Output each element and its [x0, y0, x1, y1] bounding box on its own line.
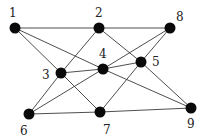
node-label-9: 9	[187, 117, 195, 131]
node-label-4: 4	[99, 47, 107, 61]
edge-5-9	[141, 62, 191, 108]
node-3	[56, 68, 67, 79]
edge-1-4	[15, 28, 103, 69]
node-9	[186, 103, 197, 114]
edge-4-9	[103, 69, 191, 108]
node-8	[165, 23, 176, 34]
edge-1-3	[15, 28, 61, 73]
node-label-8: 8	[176, 10, 184, 24]
node-label-2: 2	[95, 6, 103, 20]
edge-7-9	[100, 108, 191, 112]
edge-3-7	[61, 73, 100, 112]
node-label-1: 1	[9, 6, 17, 20]
node-label-3: 3	[42, 68, 50, 82]
edge-2-3	[61, 28, 99, 73]
node-1	[10, 23, 21, 34]
graph-diagram: 128345679	[0, 0, 209, 139]
node-4	[98, 64, 109, 75]
node-5	[136, 57, 147, 68]
node-6	[24, 109, 35, 120]
node-label-5: 5	[152, 55, 160, 69]
nodes-layer	[10, 23, 197, 120]
node-label-6: 6	[20, 124, 28, 138]
edge-4-6	[29, 69, 103, 114]
node-label-7: 7	[103, 123, 111, 137]
edge-6-7	[29, 112, 100, 114]
node-7	[95, 107, 106, 118]
node-2	[94, 23, 105, 34]
